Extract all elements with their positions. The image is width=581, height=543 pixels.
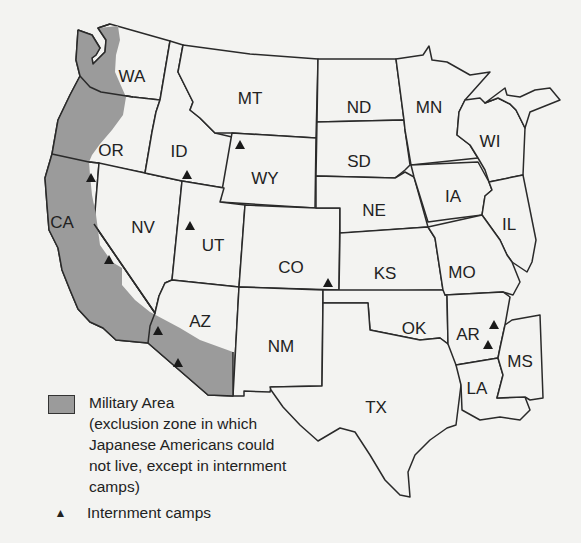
state-label-nm: NM [268, 337, 294, 356]
legend-camps: ▲ Internment camps [48, 502, 299, 524]
state-label-wy: WY [251, 169, 278, 188]
state-label-or: OR [98, 141, 124, 160]
state-label-sd: SD [347, 152, 371, 171]
state-label-mt: MT [238, 89, 263, 108]
state-label-il: IL [502, 215, 516, 234]
military-area-description: (exclusion zone in which Japanese Americ… [89, 413, 299, 497]
military-area-swatch [48, 395, 75, 414]
military-area-label: Military Area [89, 392, 299, 413]
state-label-tx: TX [365, 398, 387, 417]
camps-label: Internment camps [87, 502, 211, 523]
state-label-ms: MS [507, 352, 533, 371]
state-label-ar: AR [456, 325, 480, 344]
state-label-mn: MN [416, 98, 442, 117]
state-label-nd: ND [347, 98, 372, 117]
state-label-ok: OK [402, 319, 427, 338]
state-label-ca: CA [50, 213, 74, 232]
state-label-ut: UT [202, 236, 225, 255]
legend-military-area: Military Area (exclusion zone in which J… [48, 392, 299, 497]
state-label-ks: KS [374, 264, 397, 283]
state-co [239, 205, 340, 290]
state-label-nv: NV [131, 218, 155, 237]
state-label-az: AZ [189, 312, 211, 331]
state-label-wi: WI [480, 132, 501, 151]
state-label-mo: MO [448, 263, 475, 282]
state-label-ia: IA [445, 187, 462, 206]
state-label-la: LA [467, 379, 488, 398]
state-label-ne: NE [362, 201, 386, 220]
state-label-co: CO [278, 258, 304, 277]
triangle-icon: ▲ [48, 503, 73, 524]
map-legend: Military Area (exclusion zone in which J… [48, 392, 299, 524]
state-label-wa: WA [119, 67, 146, 86]
state-label-id: ID [171, 142, 188, 161]
